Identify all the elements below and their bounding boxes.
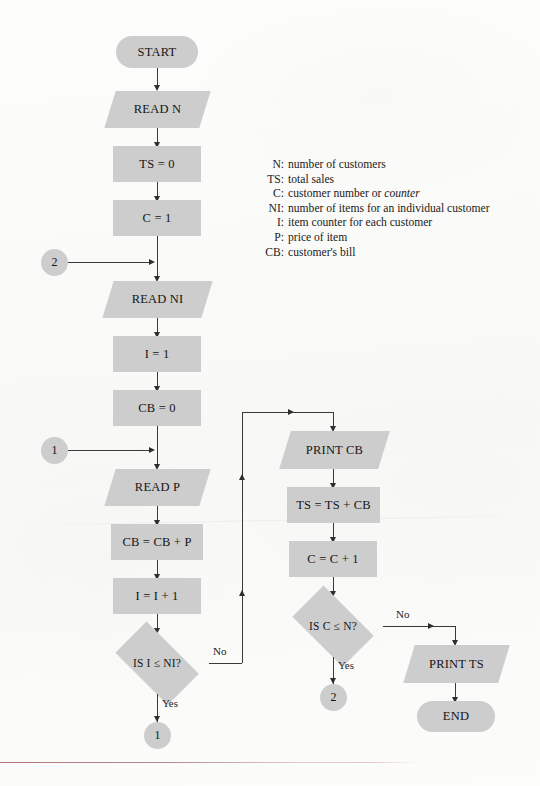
node-cb-init: CB = 0 bbox=[113, 390, 201, 426]
node-ts-init: TS = 0 bbox=[113, 146, 201, 182]
arrowhead-right bbox=[428, 623, 434, 629]
legend-value: customer number or counter bbox=[288, 187, 420, 202]
legend-value: number of items for an individual custom… bbox=[288, 202, 490, 217]
edge-c-init-to-merge bbox=[157, 236, 158, 262]
node-cb-accum: CB = CB + P bbox=[111, 524, 203, 560]
edge-cb-init-to-merge bbox=[157, 426, 158, 450]
node-cb-init-label: CB = 0 bbox=[138, 401, 175, 416]
node-print-cb: PRINT CB bbox=[285, 431, 384, 469]
node-c-incr-label: C = C + 1 bbox=[307, 552, 358, 567]
connector-2-entry-label: 2 bbox=[52, 255, 58, 270]
connector-1-entry: 1 bbox=[41, 437, 68, 464]
edge-decision-items-no-horizontal bbox=[209, 663, 242, 664]
legend-key: TS: bbox=[258, 173, 288, 188]
legend-row: C: customer number or counter bbox=[258, 187, 490, 202]
node-i-incr: I = I + 1 bbox=[113, 578, 201, 614]
edge-label-items-yes: Yes bbox=[162, 697, 178, 709]
node-print-ts: PRINT TS bbox=[409, 645, 504, 683]
node-i-incr-label: I = I + 1 bbox=[136, 589, 179, 604]
legend-value: customer's bill bbox=[288, 246, 355, 261]
arrowhead-up bbox=[239, 590, 245, 596]
node-read-n: READ N bbox=[110, 91, 205, 128]
paper-fold-line bbox=[0, 515, 540, 526]
node-c-init: C = 1 bbox=[113, 200, 201, 236]
node-cb-accum-label: CB = CB + P bbox=[122, 535, 191, 550]
legend-key: C: bbox=[258, 187, 288, 202]
node-read-ni-label: READ NI bbox=[132, 292, 184, 307]
legend-key: NI: bbox=[258, 202, 288, 217]
node-read-p-label: READ P bbox=[135, 480, 180, 495]
connector-1-entry-label: 1 bbox=[52, 443, 58, 458]
legend-value: price of item bbox=[288, 231, 347, 246]
legend-value-text: customer number or bbox=[288, 187, 384, 200]
legend: N: number of customers TS: total sales C… bbox=[258, 158, 490, 260]
legend-row: N: number of customers bbox=[258, 158, 490, 173]
legend-value: total sales bbox=[288, 173, 334, 188]
node-read-p: READ P bbox=[110, 469, 205, 506]
legend-value: number of customers bbox=[288, 158, 386, 173]
legend-key: N: bbox=[258, 158, 288, 173]
scan-artifact-line bbox=[0, 762, 418, 763]
arrowhead-right bbox=[288, 409, 294, 415]
edge-label-customers-yes: Yes bbox=[338, 659, 354, 671]
node-start: START bbox=[116, 36, 198, 68]
node-ts-accum: TS = TS + CB bbox=[287, 487, 380, 523]
node-read-n-label: READ N bbox=[134, 102, 181, 117]
node-c-init-label: C = 1 bbox=[143, 211, 172, 226]
connector-1-exit: 1 bbox=[144, 722, 171, 749]
node-print-ts-label: PRINT TS bbox=[429, 657, 484, 672]
arrowhead-right bbox=[149, 259, 155, 265]
node-read-ni: READ NI bbox=[108, 281, 207, 318]
node-end: END bbox=[417, 701, 495, 732]
arrowhead-up bbox=[239, 474, 245, 480]
node-start-label: START bbox=[138, 45, 177, 60]
connector-1-exit-label: 1 bbox=[155, 728, 161, 743]
node-decision-items-label: IS I ≤ NI? bbox=[133, 657, 181, 669]
legend-row: I: item counter for each customer bbox=[258, 216, 490, 231]
node-ts-init-label: TS = 0 bbox=[139, 157, 174, 172]
legend-key: CB: bbox=[258, 246, 288, 261]
legend-row: CB: customer's bill bbox=[258, 246, 490, 261]
node-c-incr: C = C + 1 bbox=[289, 541, 377, 577]
node-decision-customers: IS C ≤ N? bbox=[283, 595, 383, 657]
edge-label-customers-no: No bbox=[396, 608, 409, 620]
connector-2-exit-label: 2 bbox=[331, 690, 337, 705]
node-decision-customers-label: IS C ≤ N? bbox=[309, 620, 357, 632]
legend-key: I: bbox=[258, 216, 288, 231]
edge-connector-1-to-main bbox=[68, 450, 151, 451]
legend-value: item counter for each customer bbox=[288, 216, 432, 231]
edge-connector-2-to-main bbox=[68, 262, 151, 263]
legend-row: NI: number of items for an individual cu… bbox=[258, 202, 490, 217]
legend-value-italic: counter bbox=[384, 187, 419, 200]
legend-row: TS: total sales bbox=[258, 173, 490, 188]
node-print-cb-label: PRINT CB bbox=[306, 443, 363, 458]
connector-2-entry: 2 bbox=[41, 249, 68, 276]
node-decision-items: IS I ≤ NI? bbox=[105, 632, 209, 694]
legend-row: P: price of item bbox=[258, 231, 490, 246]
node-ts-accum-label: TS = TS + CB bbox=[296, 498, 371, 513]
arrowhead-right bbox=[149, 447, 155, 453]
edge-decision-customers-no-horizontal bbox=[383, 626, 455, 627]
node-end-label: END bbox=[443, 709, 469, 724]
connector-2-exit: 2 bbox=[320, 684, 347, 711]
flowchart-page: N: number of customers TS: total sales C… bbox=[0, 0, 540, 786]
node-i-init-label: I = 1 bbox=[145, 347, 170, 362]
node-i-init: I = 1 bbox=[113, 336, 201, 372]
edge-label-items-no: No bbox=[213, 645, 226, 657]
edge-feedback-vertical bbox=[242, 412, 243, 663]
legend-key: P: bbox=[258, 231, 288, 246]
